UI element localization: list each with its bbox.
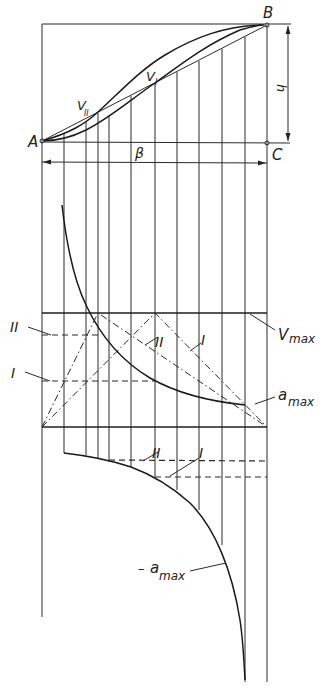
vertical-grid <box>42 24 267 682</box>
amax-curve <box>62 205 245 405</box>
arrow-up-icon <box>286 26 291 34</box>
label-i-low: I <box>199 445 203 461</box>
label-v-i-sub: I <box>155 78 158 87</box>
label-a: A <box>27 133 38 151</box>
label-h: h <box>274 84 289 92</box>
label-beta: β <box>134 145 144 161</box>
label-amax-sub: max <box>288 395 315 409</box>
arrow-left-icon <box>43 160 51 165</box>
neg-level-ii <box>109 460 267 461</box>
motion-diagram: B A C h β V I V II II I II I V max a max… <box>0 0 328 690</box>
arrow-down-icon <box>286 133 291 141</box>
label-c: C <box>272 146 283 164</box>
label-neg-sign: – <box>138 561 145 576</box>
path-geometry <box>40 23 291 166</box>
label-vmax-sub: max <box>289 332 316 346</box>
arrow-right-icon <box>258 161 266 166</box>
labels: B A C h β V I V II II I II I V max a max… <box>10 4 316 583</box>
label-i-mid: I <box>201 332 205 348</box>
label-ii-low: II <box>152 445 160 461</box>
label-neg-amax: a <box>150 559 159 577</box>
label-ii-mid: II <box>155 334 163 350</box>
label-i-left: I <box>11 365 15 381</box>
label-ii-left: II <box>10 319 18 335</box>
label-neg-amax-sub: max <box>159 569 186 583</box>
leader-lines <box>25 314 275 571</box>
label-amax: a <box>278 386 287 404</box>
label-b: B <box>263 4 273 22</box>
baseline-ac <box>42 142 290 143</box>
label-v-ii-sub: II <box>84 109 89 118</box>
deceleration-diagram <box>64 453 267 680</box>
